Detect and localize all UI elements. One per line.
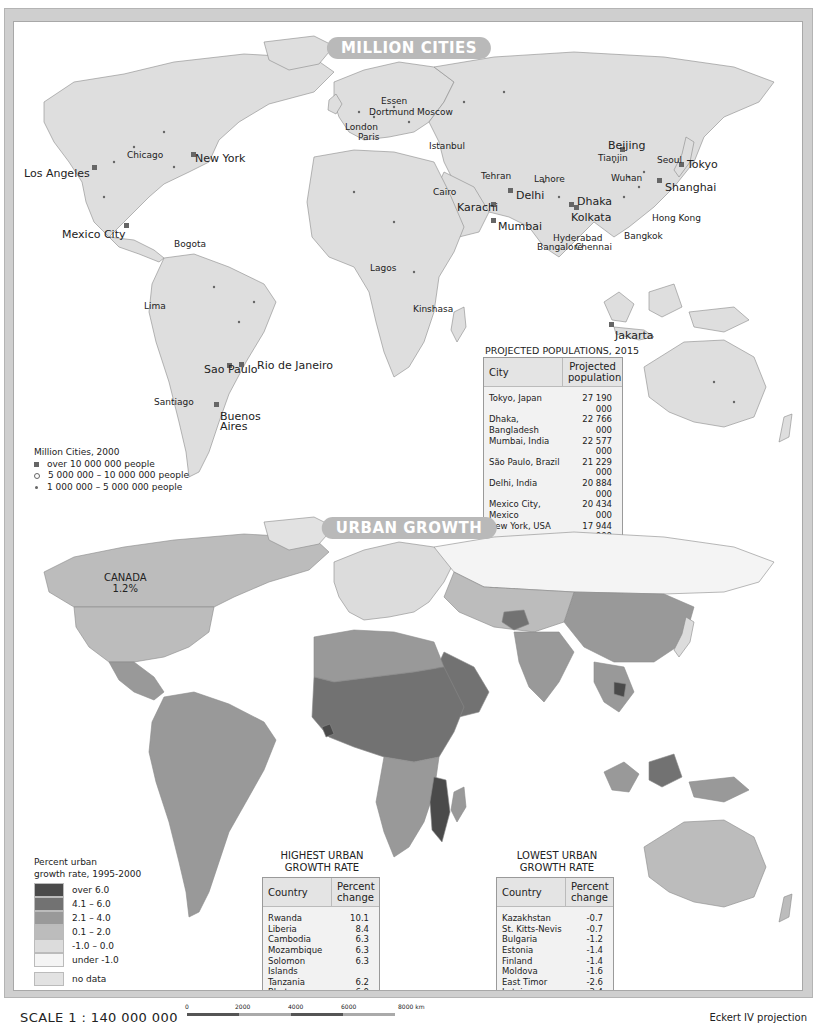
square-symbol-icon (34, 462, 39, 467)
city-label: Mexico City (62, 229, 125, 240)
city-label: Delhi (516, 190, 544, 201)
table-row: Mumbai, India22 577 000 (484, 436, 622, 457)
table-row: East Timor-2.6 (497, 977, 613, 988)
color-swatch-icon (34, 925, 64, 939)
urban-growth-panel: URBAN GROWTH CANADA 1.2% Percent urban g… (14, 512, 803, 991)
highest-growth-caption: HIGHEST URBAN GROWTH RATE (262, 850, 382, 873)
city-label: Paris (358, 133, 379, 142)
city-label: Lahore (534, 175, 565, 184)
city-label: Lima (144, 302, 166, 311)
atlas-page: MILLION CITIES Los AngelesChicagoNew Yor… (13, 21, 803, 991)
city-label: Los Angeles (24, 168, 90, 179)
city-label: Shanghai (665, 182, 716, 193)
city-label: Karachi (457, 202, 498, 213)
city-label: London (345, 123, 378, 132)
color-swatch-icon (34, 953, 64, 967)
table-row: São Paulo, Brazil21 229 000 (484, 457, 622, 478)
color-swatch-icon (34, 883, 64, 897)
table-row: Liberia8.4 (263, 924, 379, 935)
city-label: Tianjin (598, 154, 628, 163)
city-label: Wuhan (611, 174, 642, 183)
table-row: Rwanda10.1 (263, 913, 379, 924)
color-swatch-icon (34, 939, 64, 953)
legend-item-over-10m: over 10 000 000 people (34, 459, 189, 471)
city-label: Santiago (154, 398, 194, 407)
city-label: Jakarta (615, 330, 653, 341)
scale-bar: 0 2000 4000 6000 8000 km (185, 1003, 445, 1023)
table-body: Kazakhstan-0.7St. Kitts-Nevis-0.7Bulgari… (497, 907, 613, 991)
canada-annotation: CANADA 1.2% (104, 572, 147, 594)
table-row: Cambodia6.3 (263, 934, 379, 945)
table-row: Dhaka, Bangladesh22 766 000 (484, 414, 622, 435)
table-row: St. Kitts-Nevis-0.7 (497, 924, 613, 935)
million-cities-panel: MILLION CITIES Los AngelesChicagoNew Yor… (14, 22, 803, 512)
city-label: Aires (220, 421, 247, 432)
city-label: Rio de Janeiro (257, 360, 333, 371)
color-swatch-icon (34, 911, 64, 925)
legend-item-5m-10m: 5 000 000 – 10 000 000 people (34, 470, 189, 482)
lowest-growth-caption: LOWEST URBAN GROWTH RATE (497, 850, 617, 873)
table-row: Tanzania6.2 (263, 977, 379, 988)
city-label: Dortmund (369, 108, 415, 117)
table-row: Bulgaria-1.2 (497, 934, 613, 945)
legend-item: over 6.0 (34, 883, 141, 897)
city-label: Beijing (608, 140, 645, 151)
city-label: Mumbai (498, 221, 542, 232)
legend-item: 4.1 – 6.0 (34, 897, 141, 911)
million-cities-title: MILLION CITIES (327, 37, 491, 59)
city-label: Chennai (575, 243, 612, 252)
table-row: Latvia-3.4 (497, 987, 613, 991)
city-label: Tokyo (687, 159, 718, 170)
city-label: Hong Kong (652, 214, 701, 223)
table-row: Estonia-1.4 (497, 945, 613, 956)
city-label: Kinshasa (413, 305, 453, 314)
city-label: Chicago (127, 151, 163, 160)
legend-item-1m-5m: 1 000 000 – 5 000 000 people (34, 482, 189, 494)
legend-swatches: over 6.04.1 – 6.02.1 – 4.00.1 – 2.0-1.0 … (34, 883, 141, 986)
city-label: Kolkata (571, 212, 611, 223)
city-label: Bogota (174, 240, 206, 249)
color-swatch-icon (34, 972, 64, 986)
table-header: Country Percent change (497, 878, 613, 907)
city-label: Tehran (481, 172, 511, 181)
million-cities-legend: Million Cities, 2000 over 10 000 000 peo… (34, 447, 189, 494)
city-label: Cairo (433, 188, 456, 197)
table-row: Solomon Islands6.3 (263, 956, 379, 977)
table-row: Mozambique6.3 (263, 945, 379, 956)
city-label: Istanbul (429, 142, 465, 151)
circle-symbol-icon (34, 473, 40, 479)
legend-item: no data (34, 972, 141, 986)
dot-symbol-icon (35, 486, 38, 489)
legend-item: 2.1 – 4.0 (34, 911, 141, 925)
table-row: Finland-1.4 (497, 956, 613, 967)
map-footer: SCALE 1 : 140 000 000 0 2000 4000 6000 8… (0, 1000, 817, 1024)
city-label: Essen (381, 97, 407, 106)
table-body: Rwanda10.1Liberia8.4Cambodia6.3Mozambiqu… (263, 907, 379, 991)
city-label: Sao Paulo (204, 364, 258, 375)
table-row: Delhi, India20 884 000 (484, 478, 622, 499)
city-label: Moscow (417, 108, 453, 117)
table-row: Bhutan6.0 (263, 987, 379, 991)
legend-item: 0.1 – 2.0 (34, 925, 141, 939)
legend-item: -1.0 – 0.0 (34, 939, 141, 953)
city-label: Bangkok (624, 232, 663, 241)
city-label: Seoul (657, 156, 682, 165)
projection-label: Eckert IV projection (709, 1012, 807, 1023)
highest-growth-table: Country Percent change Rwanda10.1Liberia… (262, 877, 380, 991)
projected-populations-caption: PROJECTED POPULATIONS, 2015 (485, 345, 639, 356)
urban-growth-title: URBAN GROWTH (322, 517, 497, 539)
lowest-growth-table: Country Percent change Kazakhstan-0.7St.… (496, 877, 614, 991)
legend-title: Million Cities, 2000 (34, 447, 189, 459)
table-header: City Projected population (484, 358, 622, 387)
million-cities-world-map (14, 22, 803, 512)
table-header: Country Percent change (263, 878, 379, 907)
table-row: Tokyo, Japan27 190 000 (484, 393, 622, 414)
scale-ratio: SCALE 1 : 140 000 000 (20, 1010, 178, 1024)
table-row: Kazakhstan-0.7 (497, 913, 613, 924)
legend-item: under -1.0 (34, 953, 141, 967)
urban-growth-legend: Percent urban growth rate, 1995-2000 ove… (34, 857, 141, 986)
city-label: Dhaka (577, 196, 612, 207)
color-swatch-icon (34, 897, 64, 911)
city-label: Lagos (370, 264, 396, 273)
table-row: Moldova-1.6 (497, 966, 613, 977)
